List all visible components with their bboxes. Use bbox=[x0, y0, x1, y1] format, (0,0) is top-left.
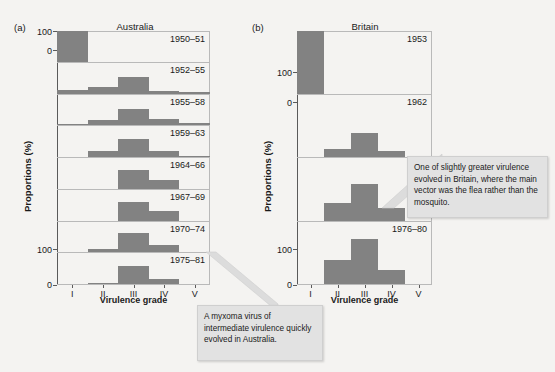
x-tick-label-II: II bbox=[88, 289, 119, 299]
bar bbox=[351, 184, 378, 220]
histogram-row: 1950–51 bbox=[57, 31, 210, 63]
bar bbox=[88, 120, 119, 125]
bar bbox=[324, 203, 351, 221]
panel-a-ylabel: Proportions (%) bbox=[22, 141, 33, 212]
bar bbox=[118, 202, 149, 220]
bar bbox=[149, 279, 180, 284]
australia-note-callout: A myxoma virus of intermediate virulence… bbox=[197, 305, 323, 361]
period-label: 1967–69 bbox=[170, 192, 205, 202]
panel-a-ytick-100-bottom: 100 bbox=[26, 245, 52, 255]
panel-b-ylabel: Proportions (%) bbox=[262, 141, 273, 212]
x-tick-mark bbox=[72, 285, 73, 288]
period-label: 1953 bbox=[407, 34, 427, 44]
bar bbox=[149, 245, 180, 252]
period-label: 1955–58 bbox=[170, 97, 205, 107]
bar bbox=[149, 91, 180, 94]
x-tick-label-V: V bbox=[405, 289, 432, 299]
x-tick-mark bbox=[392, 285, 393, 288]
panel-a-ytick-mark-0-bottom bbox=[53, 285, 57, 286]
bar bbox=[57, 90, 88, 94]
bar bbox=[88, 87, 119, 93]
bar bbox=[351, 133, 378, 157]
histogram-row: 1967–69 bbox=[57, 190, 210, 222]
x-tick-mark bbox=[164, 285, 165, 288]
period-label: 1950–51 bbox=[170, 34, 205, 44]
histogram-row: 1955–58 bbox=[57, 95, 210, 127]
bar bbox=[179, 92, 210, 94]
bar bbox=[149, 151, 180, 157]
panel-a-tag: (a) bbox=[14, 22, 26, 33]
histogram-row: 1953 bbox=[297, 31, 432, 95]
bar bbox=[378, 270, 405, 284]
panel-b-ytick-0-top: 0 bbox=[266, 98, 292, 108]
bar bbox=[57, 31, 88, 62]
x-tick-label-IV: IV bbox=[149, 289, 180, 299]
bar bbox=[149, 119, 180, 126]
panel-b-ytick-mark-0-bottom bbox=[293, 285, 297, 286]
bar bbox=[88, 283, 119, 284]
bar bbox=[179, 156, 210, 157]
x-tick-mark bbox=[134, 285, 135, 288]
histogram-row: 1952–55 bbox=[57, 63, 210, 95]
period-label: 1959–63 bbox=[170, 128, 205, 138]
bar bbox=[324, 149, 351, 157]
histogram-row: 1962 bbox=[297, 95, 432, 159]
period-label: 1964–66 bbox=[170, 160, 205, 170]
x-tick-label-V: V bbox=[179, 289, 210, 299]
x-tick-mark bbox=[195, 285, 196, 288]
panel-a-ytick-100-top: 100 bbox=[26, 27, 52, 37]
x-tick-label-IV: IV bbox=[378, 289, 405, 299]
bar bbox=[118, 109, 149, 125]
figure-canvas: (a) Australia Proportions (%) 1950–51195… bbox=[0, 0, 555, 372]
panel-a-ytick-0-bottom: 0 bbox=[26, 280, 52, 290]
period-label: 1970–74 bbox=[170, 224, 205, 234]
x-tick-label-III: III bbox=[351, 289, 378, 299]
bar bbox=[324, 260, 351, 284]
histogram-row: 1976–80 bbox=[297, 222, 432, 286]
bar bbox=[149, 211, 180, 221]
histogram-row: 1959–63 bbox=[57, 126, 210, 158]
bar bbox=[118, 77, 149, 94]
bar bbox=[118, 266, 149, 284]
panel-b-ytick-mark-0-top bbox=[293, 102, 297, 103]
bar bbox=[88, 151, 119, 157]
x-tick-label-III: III bbox=[118, 289, 149, 299]
bar bbox=[179, 123, 210, 125]
panel-b-tag: (b) bbox=[252, 22, 264, 33]
x-tick-mark bbox=[338, 285, 339, 288]
panel-a-ytick-mark-0-top bbox=[53, 50, 57, 51]
panel-a-ytick-mark-100-top bbox=[53, 31, 57, 32]
bar bbox=[118, 170, 149, 189]
bar bbox=[297, 31, 324, 94]
bar bbox=[118, 233, 149, 252]
bar bbox=[351, 239, 378, 284]
panel-b-ytick-mark-100-top bbox=[293, 72, 297, 73]
bar bbox=[118, 139, 149, 157]
x-tick-mark bbox=[365, 285, 366, 288]
histogram-row: 1975–81 bbox=[57, 253, 210, 285]
histogram-row: 1970–74 bbox=[57, 222, 210, 254]
x-tick-mark bbox=[419, 285, 420, 288]
period-label: 1962 bbox=[407, 97, 427, 107]
x-tick-mark bbox=[103, 285, 104, 288]
panel-a-ytick-mark-100-bottom bbox=[53, 249, 57, 250]
bar bbox=[88, 249, 119, 253]
panel-b-ytick-mark-100-bottom bbox=[293, 249, 297, 250]
x-tick-label-I: I bbox=[57, 289, 88, 299]
britain-note-callout: One of slightly greater virulence evolve… bbox=[407, 156, 548, 218]
panel-b-ytick-100-top: 100 bbox=[266, 68, 292, 78]
histogram-row: 1964–66 bbox=[57, 158, 210, 190]
period-label: 1952–55 bbox=[170, 65, 205, 75]
x-tick-mark bbox=[311, 285, 312, 288]
bar bbox=[149, 180, 180, 189]
x-tick-label-II: II bbox=[324, 289, 351, 299]
bar bbox=[57, 124, 88, 125]
panel-a-ytick-0-top: 0 bbox=[26, 46, 52, 56]
period-label: 1976–80 bbox=[392, 224, 427, 234]
x-tick-label-I: I bbox=[297, 289, 324, 299]
panel-a-plot: 1950–511952–551955–581959–631964–661967–… bbox=[57, 31, 210, 285]
